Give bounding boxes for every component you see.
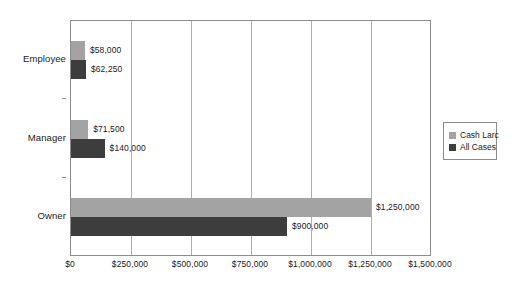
bar-manager-cash-larc[interactable] bbox=[71, 120, 88, 139]
x-tick-label-5: $1,250,000 bbox=[348, 259, 392, 269]
legend-label-1: All Cases bbox=[460, 142, 496, 152]
bar-owner-cash-larc[interactable] bbox=[71, 198, 371, 217]
legend-swatch-icon-cash-larc bbox=[449, 132, 456, 139]
legend-swatch-icon-all-cases bbox=[449, 144, 456, 151]
legend: Cash Larc All Cases bbox=[443, 122, 497, 160]
legend-item-0[interactable]: Cash Larc bbox=[449, 130, 492, 140]
bar-employee-cash-larc[interactable] bbox=[71, 41, 85, 60]
legend-label-0: Cash Larc bbox=[460, 130, 499, 140]
bar-manager-all-cases[interactable] bbox=[71, 139, 105, 158]
gridline-5 bbox=[371, 21, 372, 255]
y-axis-tick-0 bbox=[62, 98, 66, 99]
x-tick-label-1: $250,000 bbox=[112, 259, 148, 269]
bar-value-label-owner-0: $1,250,000 bbox=[376, 198, 420, 217]
bar-value-label-owner-1: $900,000 bbox=[292, 217, 328, 236]
bar-chart: $58,000$62,250$71,500$140,000$1,250,000$… bbox=[0, 0, 526, 293]
x-tick-label-6: $1,500,000 bbox=[408, 259, 452, 269]
x-tick-label-0: $0 bbox=[65, 259, 75, 269]
x-axis-tick-labels: $0$250,000$500,000$750,000$1,000,000$1,2… bbox=[0, 259, 526, 275]
bar-employee-all-cases[interactable] bbox=[71, 60, 86, 79]
bar-value-label-employee-1: $62,250 bbox=[91, 60, 122, 79]
legend-item-1[interactable]: All Cases bbox=[449, 142, 492, 152]
x-tick-label-2: $500,000 bbox=[172, 259, 208, 269]
bar-value-label-manager-0: $71,500 bbox=[93, 120, 124, 139]
bar-owner-all-cases[interactable] bbox=[71, 217, 287, 236]
plot-area: $58,000$62,250$71,500$140,000$1,250,000$… bbox=[70, 20, 431, 256]
y-axis-label-owner: Owner bbox=[2, 210, 66, 221]
y-axis-label-employee: Employee bbox=[2, 53, 66, 64]
x-tick-label-3: $750,000 bbox=[232, 259, 268, 269]
bar-value-label-manager-1: $140,000 bbox=[110, 139, 146, 158]
y-axis-tick-1 bbox=[62, 177, 66, 178]
y-axis-label-manager: Manager bbox=[2, 132, 66, 143]
x-tick-label-4: $1,000,000 bbox=[288, 259, 332, 269]
y-axis-category-labels: EmployeeManagerOwner bbox=[0, 20, 66, 256]
bar-value-label-employee-0: $58,000 bbox=[90, 41, 121, 60]
